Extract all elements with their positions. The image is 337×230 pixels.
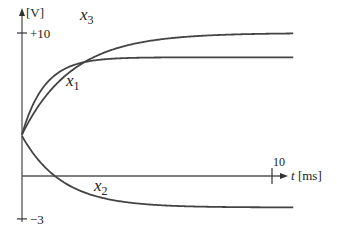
series-lines bbox=[22, 33, 293, 207]
series-labels: x3x1x2 bbox=[65, 5, 108, 198]
x-axis-label: t [ms] bbox=[291, 168, 322, 183]
ticks: +10−310 bbox=[17, 26, 285, 227]
y-tick-label: +10 bbox=[30, 26, 50, 41]
series-line-x1 bbox=[22, 57, 293, 134]
series-line-x3 bbox=[22, 33, 293, 134]
y-axis-label: [V] bbox=[26, 5, 44, 20]
x-tick-label: 10 bbox=[273, 155, 285, 169]
series-line-x2 bbox=[22, 136, 293, 207]
x-axis-label-unit: [ms] bbox=[295, 168, 322, 183]
y-tick-label: −3 bbox=[30, 212, 44, 227]
x-axis-arrow bbox=[280, 173, 288, 179]
step-response-chart: [V] t [ms] +10−310 x3x1x2 bbox=[0, 0, 337, 230]
series-label-x2: x2 bbox=[93, 176, 108, 198]
series-label-x3: x3 bbox=[79, 5, 94, 27]
y-axis-arrow bbox=[19, 8, 25, 16]
series-label-x1: x1 bbox=[65, 71, 80, 93]
